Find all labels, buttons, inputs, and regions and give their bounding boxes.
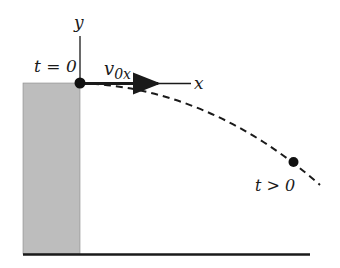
later-time-label: t > 0 [255,176,295,195]
velocity-symbol: v [104,58,114,79]
y-axis-label: y [73,12,84,32]
projectile-later-point [289,157,299,167]
projectile-diagram: y x t = 0 t > 0 v0x [0,0,340,268]
trajectory-path [80,83,320,185]
velocity-label: v0x [104,58,131,82]
start-time-label: t = 0 [34,56,77,76]
velocity-subscript: 0x [114,66,131,82]
x-axis-label: x [194,73,204,93]
projectile-start-point [75,78,86,89]
cliff [23,83,80,254]
